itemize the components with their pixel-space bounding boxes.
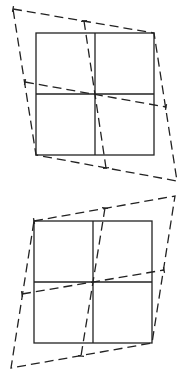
bottom-figure bbox=[11, 196, 175, 368]
top-figure bbox=[12, 6, 177, 181]
midline-end-tick bbox=[81, 21, 87, 22]
diagram-canvas bbox=[0, 0, 186, 380]
midline-end-tick bbox=[103, 168, 109, 169]
